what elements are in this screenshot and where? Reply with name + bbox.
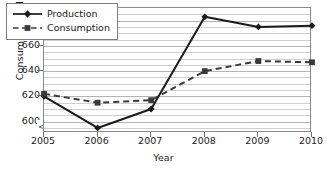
data-point-consumption: [95, 100, 101, 106]
y-axis-tick-label: 600: [8, 116, 40, 126]
consumption-line-swatch: [12, 22, 43, 34]
data-point-consumption: [309, 59, 315, 65]
legend-label-consumption: Consumption: [47, 23, 110, 33]
data-point-consumption: [256, 58, 262, 64]
data-point-production: [255, 24, 262, 31]
production-line-swatch: [12, 8, 43, 20]
y-axis-tick-label: 620: [8, 90, 40, 100]
x-axis-tick-label: 2010: [289, 136, 327, 146]
legend-item-production: Production: [12, 7, 110, 21]
line-chart: Consumption (MMT) Year 600620640660680 2…: [0, 0, 327, 169]
legend: Production Consumption: [6, 3, 118, 40]
series-line-consumption: [44, 61, 312, 103]
legend-item-consumption: Consumption: [12, 21, 110, 35]
x-axis-tick-label: 2007: [128, 136, 172, 146]
x-axis-tick-label: 2008: [182, 136, 226, 146]
data-point-production: [309, 22, 316, 29]
legend-label-production: Production: [47, 9, 98, 19]
data-point-consumption: [41, 91, 47, 97]
x-axis-title: Year: [0, 152, 327, 163]
data-point-consumption: [202, 68, 208, 74]
y-axis-tick-label: 640: [8, 65, 40, 75]
x-axis-tick-label: 2005: [21, 136, 65, 146]
x-axis-tick-label: 2006: [75, 136, 119, 146]
y-axis-tick-label: 660: [8, 40, 40, 50]
x-axis-tick-label: 2009: [235, 136, 279, 146]
data-point-consumption: [148, 97, 154, 103]
